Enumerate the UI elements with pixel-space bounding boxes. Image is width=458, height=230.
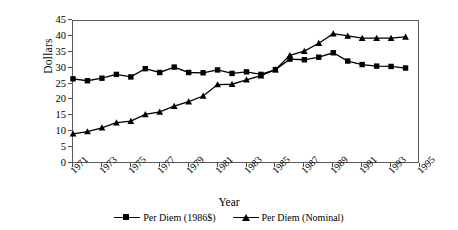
square-marker: [128, 74, 133, 79]
square-marker: [114, 72, 119, 77]
square-marker: [359, 62, 364, 67]
y-tick-label: 15: [6, 109, 66, 120]
y-tick-label: 10: [6, 125, 66, 136]
y-tick-20: 20: [0, 94, 72, 104]
square-marker: [345, 58, 350, 63]
y-tick-5: 5: [0, 142, 72, 152]
series-canvas: [73, 21, 420, 164]
square-marker: [186, 70, 191, 75]
legend-item-per-diem-1986: Per Diem (1986$): [114, 212, 215, 223]
square-marker: [302, 57, 307, 62]
square-marker: [403, 65, 408, 70]
legend-label: Per Diem (Nominal): [262, 212, 344, 223]
y-tick-25: 25: [0, 79, 72, 89]
legend-key: [114, 213, 140, 222]
legend-label: Per Diem (1986$): [143, 212, 215, 223]
square-marker: [172, 64, 177, 69]
square-marker: [157, 70, 162, 75]
series-line: [73, 53, 406, 81]
legend-key: [233, 213, 259, 222]
triangle-marker: [330, 30, 337, 36]
y-tick-30: 30: [0, 63, 72, 73]
y-tick-label: 35: [6, 46, 66, 57]
y-tick-label: 20: [6, 93, 66, 104]
y-tick-40: 40: [0, 31, 72, 41]
series-line: [73, 34, 406, 134]
y-tick-45: 45: [0, 15, 72, 25]
y-tick-15: 15: [0, 110, 72, 120]
square-marker: [244, 69, 249, 74]
plot-area: [72, 20, 419, 163]
y-tick-label: 30: [6, 62, 66, 73]
y-tick-10: 10: [0, 126, 72, 136]
square-marker: [331, 50, 336, 55]
square-marker: [374, 63, 379, 68]
y-tick-35: 35: [0, 47, 72, 57]
square-marker: [99, 76, 104, 81]
triangle-marker: [315, 40, 322, 46]
y-tick-label: 45: [6, 14, 66, 25]
legend-item-per-diem-nominal: Per Diem (Nominal): [233, 212, 344, 223]
chart-figure: Dollars 051015202530354045 1971197319751…: [0, 0, 458, 230]
triangle-marker: [301, 48, 308, 54]
square-marker: [85, 78, 90, 83]
series-per-diem-nominal: [70, 30, 409, 136]
square-marker: [388, 64, 393, 69]
square-marker: [316, 55, 321, 60]
y-tick-label: 25: [6, 78, 66, 89]
square-marker: [229, 71, 234, 76]
square-marker: [215, 67, 220, 72]
chart-legend: Per Diem (1986$)Per Diem (Nominal): [0, 209, 458, 225]
y-tick-label: 0: [6, 157, 66, 168]
y-tick-0: 0: [0, 158, 72, 168]
square-marker: [143, 66, 148, 71]
square-marker: [200, 70, 205, 75]
square-marker: [70, 76, 75, 81]
triangle-marker: [242, 214, 250, 221]
x-axis-title: Year: [0, 196, 458, 208]
y-tick-label: 40: [6, 30, 66, 41]
square-marker: [123, 214, 129, 220]
y-tick-label: 5: [6, 141, 66, 152]
series-per-diem-1986: [70, 50, 408, 83]
